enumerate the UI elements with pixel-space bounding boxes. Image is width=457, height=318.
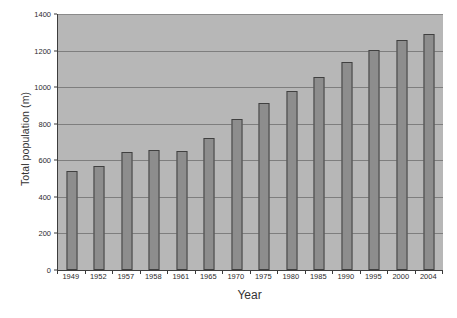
- x-axis-tick-label: 1958: [145, 272, 162, 281]
- bar: [314, 77, 325, 270]
- x-axis-tick-label: 1961: [172, 272, 189, 281]
- y-axis-tick-label: 1400: [34, 10, 51, 19]
- bar-slot: [361, 14, 389, 270]
- bar-slot: [86, 14, 114, 270]
- bars-layer: [58, 14, 443, 270]
- bar: [176, 151, 187, 270]
- x-axis-tick-label: 1965: [200, 272, 217, 281]
- bar-slot: [141, 14, 169, 270]
- y-axis-tick-label: 800: [38, 119, 51, 128]
- bar: [66, 171, 77, 270]
- plot-area: [57, 14, 443, 271]
- bar-slot: [278, 14, 306, 270]
- bar-slot: [196, 14, 224, 270]
- bar: [286, 91, 297, 270]
- y-axis-tick-label: 1200: [34, 46, 51, 55]
- x-axis-tick-label: 1985: [310, 272, 327, 281]
- x-axis-title: Year: [57, 288, 442, 302]
- x-axis-tick-label: 1980: [282, 272, 299, 281]
- bar: [259, 103, 270, 270]
- x-axis-tick-label: 1957: [117, 272, 134, 281]
- bar: [121, 152, 132, 270]
- y-axis-tick-label: 600: [38, 156, 51, 165]
- bar: [231, 119, 242, 270]
- x-axis-tick-label: 2000: [392, 272, 409, 281]
- bar: [204, 138, 215, 270]
- bar: [149, 150, 160, 270]
- bar: [424, 34, 435, 270]
- y-axis-tick-label: 0: [47, 266, 51, 275]
- bar-chart: Total population (m) 0200400600800100012…: [0, 0, 457, 318]
- bar-slot: [223, 14, 251, 270]
- x-axis-title-label: Year: [237, 288, 261, 302]
- x-axis-tick-label: 1949: [62, 272, 79, 281]
- y-axis-tick-labels: 0200400600800100012001400: [28, 14, 54, 270]
- x-axis-tick-mark: [442, 271, 443, 274]
- bar-slot: [58, 14, 86, 270]
- x-axis-tick-label: 1995: [365, 272, 382, 281]
- bar: [369, 50, 380, 270]
- bar-slot: [388, 14, 416, 270]
- y-axis-tick-label: 200: [38, 229, 51, 238]
- bar-slot: [168, 14, 196, 270]
- x-axis-tick-label: 1975: [255, 272, 272, 281]
- bar: [94, 166, 105, 270]
- x-axis-tick-label: 1970: [227, 272, 244, 281]
- bar-slot: [333, 14, 361, 270]
- y-axis-tick-label: 1000: [34, 83, 51, 92]
- bar-slot: [251, 14, 279, 270]
- bar: [341, 62, 352, 270]
- y-axis-tick-label: 400: [38, 192, 51, 201]
- bar-slot: [416, 14, 444, 270]
- x-axis-tick-label: 1952: [90, 272, 107, 281]
- x-axis-tick-labels: 1949195219571958196119651970197519801985…: [57, 272, 442, 286]
- x-axis-tick-label: 2004: [420, 272, 437, 281]
- x-axis-tick-label: 1990: [337, 272, 354, 281]
- bar: [396, 40, 407, 270]
- bar-slot: [113, 14, 141, 270]
- bar-slot: [306, 14, 334, 270]
